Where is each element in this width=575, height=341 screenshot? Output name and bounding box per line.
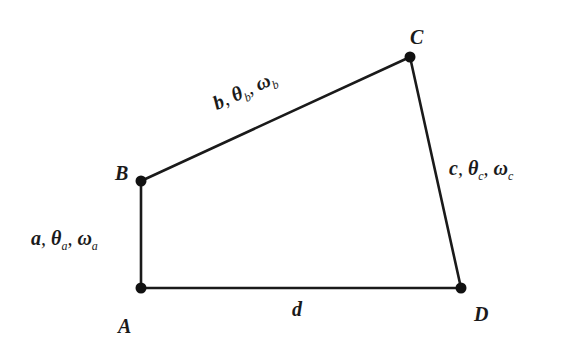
link-c-omega-sub: c <box>508 169 513 183</box>
link-c-omega: ω <box>494 157 508 179</box>
separator: , <box>67 227 77 249</box>
link-a-angle: θ <box>51 227 61 249</box>
link-label-c: c, θc, ωc <box>449 158 513 178</box>
link-c-angle-sub: c <box>478 169 483 183</box>
separator: , <box>484 157 494 179</box>
joint-c <box>405 52 416 63</box>
link-a-angle-sub: a <box>61 239 67 253</box>
link-d-length: d <box>292 298 302 320</box>
link-label-d: d <box>292 299 302 319</box>
link-a-omega: ω <box>77 227 91 249</box>
link-b <box>141 57 410 181</box>
joint-a <box>136 283 147 294</box>
joint-b <box>136 176 147 187</box>
vertex-label-d: D <box>474 304 488 324</box>
link-a-length: a <box>31 227 41 249</box>
links <box>141 57 461 288</box>
separator: , <box>458 157 468 179</box>
vertex-label-c: C <box>410 27 423 47</box>
vertex-label-b: B <box>115 163 128 183</box>
vertex-label-a: A <box>118 316 131 336</box>
link-a-omega-sub: a <box>92 239 98 253</box>
link-label-a: a, θa, ωa <box>31 228 98 248</box>
link-c-angle: θ <box>468 157 478 179</box>
separator: , <box>41 227 51 249</box>
link-c-length: c <box>449 157 458 179</box>
joint-d <box>456 283 467 294</box>
